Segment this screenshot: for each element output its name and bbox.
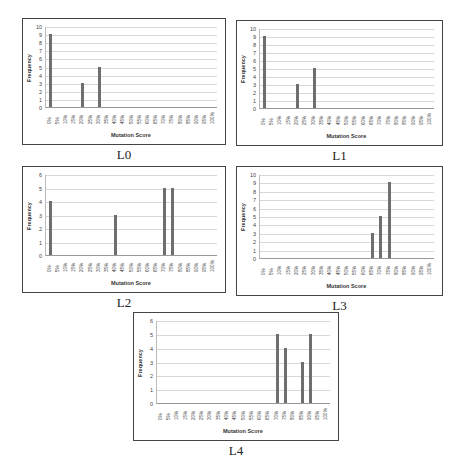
- chart-caption-l0: L0: [22, 147, 226, 163]
- gridline: [46, 68, 217, 69]
- x-tick-label: 55%: [137, 263, 142, 272]
- bar-65pct: [371, 233, 374, 258]
- chart-frame-l0: 012345678910Frequency0%5%10%15%20%25%30%…: [22, 18, 226, 145]
- y-tick-label: 3: [32, 81, 42, 87]
- chart-frame-l4: 0123456Frequency0%5%10%15%20%25%30%35%40…: [133, 312, 339, 441]
- gridline: [46, 92, 217, 93]
- gridline: [260, 192, 434, 193]
- gridline: [46, 59, 217, 60]
- x-tick-label: 10%: [277, 266, 282, 275]
- y-tick-label: 1: [143, 387, 153, 393]
- y-tick-label: 0: [143, 401, 153, 407]
- x-tick-label: 75%: [282, 411, 287, 420]
- x-tick-label: 90%: [307, 411, 312, 420]
- gridline: [46, 43, 217, 44]
- bar-40pct: [114, 215, 117, 256]
- bar-30pct: [313, 68, 316, 108]
- gridline: [260, 45, 434, 46]
- x-axis-label: Mutation Score: [327, 133, 367, 139]
- y-tick-label: 2: [32, 89, 42, 95]
- x-tick-label: 50%: [344, 266, 349, 275]
- y-tick-label: 1: [32, 97, 42, 103]
- x-tick-label: 95%: [202, 263, 207, 272]
- gridline: [260, 37, 434, 38]
- x-tick-label: 60%: [145, 115, 150, 124]
- x-tick-label: 100%: [210, 112, 215, 124]
- x-tick-label: 70%: [161, 263, 166, 272]
- x-tick-label: 45%: [120, 115, 125, 124]
- gridline: [46, 243, 217, 244]
- x-tick-label: 25%: [88, 263, 93, 272]
- gridline: [260, 200, 434, 201]
- x-tick-label: 40%: [327, 116, 332, 125]
- gridline: [260, 77, 434, 78]
- gridline: [46, 202, 217, 203]
- bar-20pct: [296, 84, 299, 108]
- y-tick-label: 5: [143, 332, 153, 338]
- x-tick-label: 45%: [232, 411, 237, 420]
- x-axis-label: Mutation Score: [111, 280, 151, 286]
- gridline: [46, 175, 217, 176]
- x-tick-label: 85%: [186, 263, 191, 272]
- x-tick-label: 50%: [129, 115, 134, 124]
- gridline: [260, 175, 434, 176]
- bar-70pct: [379, 216, 382, 258]
- gridline: [46, 189, 217, 190]
- chart-caption-l4: L4: [133, 443, 339, 459]
- y-tick-label: 4: [32, 199, 42, 205]
- y-tick-label: 5: [32, 186, 42, 192]
- plot-area: [259, 175, 434, 259]
- gridline: [260, 85, 434, 86]
- x-tick-label: 85%: [402, 116, 407, 125]
- x-tick-label: 70%: [377, 266, 382, 275]
- x-tick-label: 10%: [174, 411, 179, 420]
- gridline: [260, 234, 434, 235]
- x-tick-label: 35%: [104, 263, 109, 272]
- x-tick-label: 90%: [194, 263, 199, 272]
- x-tick-label: 75%: [169, 263, 174, 272]
- y-axis-label: Frequency: [240, 203, 246, 231]
- y-tick-label: 6: [246, 58, 256, 64]
- y-tick-label: 10: [32, 24, 42, 30]
- x-tick-label: 80%: [178, 263, 183, 272]
- x-tick-label: 20%: [79, 115, 84, 124]
- x-tick-label: 60%: [257, 411, 262, 420]
- gridline: [157, 349, 330, 350]
- gridline: [260, 29, 434, 30]
- x-tick-label: 85%: [186, 115, 191, 124]
- x-tick-label: 40%: [224, 411, 229, 420]
- y-tick-label: 3: [32, 213, 42, 219]
- y-tick-label: 4: [246, 74, 256, 80]
- x-tick-label: 95%: [419, 116, 424, 125]
- x-tick-label: 60%: [145, 263, 150, 272]
- x-axis-label: Mutation Score: [327, 283, 367, 289]
- y-tick-label: 10: [246, 172, 256, 178]
- y-tick-label: 2: [246, 90, 256, 96]
- y-tick-label: 5: [32, 65, 42, 71]
- y-tick-label: 4: [143, 346, 153, 352]
- gridline: [260, 93, 434, 94]
- x-tick-label: 45%: [336, 266, 341, 275]
- x-tick-label: 0%: [261, 268, 266, 275]
- x-tick-label: 75%: [386, 116, 391, 125]
- x-tick-label: 80%: [178, 115, 183, 124]
- y-tick-label: 1: [246, 248, 256, 254]
- x-tick-label: 40%: [112, 115, 117, 124]
- x-tick-label: 70%: [161, 115, 166, 124]
- x-tick-label: 55%: [352, 266, 357, 275]
- gridline: [157, 321, 330, 322]
- x-tick-label: 0%: [261, 118, 266, 125]
- plot-area: [45, 175, 217, 256]
- x-tick-label: 20%: [79, 263, 84, 272]
- x-tick-label: 25%: [302, 266, 307, 275]
- x-tick-label: 40%: [112, 263, 117, 272]
- x-tick-label: 60%: [361, 266, 366, 275]
- y-tick-label: 7: [246, 50, 256, 56]
- bar-0pct: [263, 36, 266, 108]
- x-tick-label: 30%: [311, 266, 316, 275]
- gridline: [157, 376, 330, 377]
- x-tick-label: 95%: [315, 411, 320, 420]
- x-tick-label: 30%: [96, 115, 101, 124]
- x-tick-label: 55%: [249, 411, 254, 420]
- x-tick-label: 65%: [265, 411, 270, 420]
